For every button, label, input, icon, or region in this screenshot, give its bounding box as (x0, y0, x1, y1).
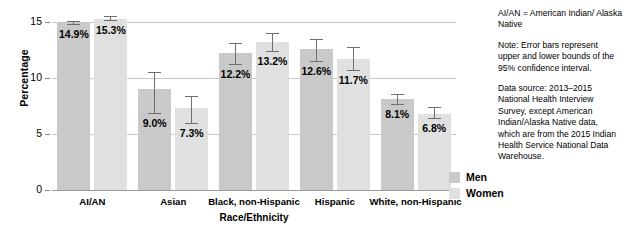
error-bar-line (353, 47, 354, 72)
legend-swatch-women-icon (449, 188, 460, 199)
error-bar-cap-upper (428, 107, 441, 108)
error-bar-line (272, 33, 273, 52)
error-bar-women-3 (337, 47, 370, 72)
legend-item-men: Men (449, 169, 504, 185)
bar-label-men-0: 14.9% (54, 28, 93, 40)
bar-label-women-0: 15.3% (91, 24, 130, 36)
error-bar-cap-lower (229, 64, 242, 65)
error-bar-men-4 (381, 94, 414, 105)
error-bar-women-2 (256, 33, 289, 52)
y-tick-label-0: 0 (8, 183, 42, 195)
error-bar-men-3 (300, 39, 333, 63)
y-tick-label-15: 15 (8, 15, 42, 27)
y-tick-mark-15 (45, 22, 50, 23)
error-bar-cap-lower (428, 118, 441, 119)
x-axis-title: Race/Ethnicity (52, 212, 456, 223)
error-bar-cap-lower (148, 113, 161, 114)
y-tick-mark-0 (45, 190, 50, 191)
error-bar-cap-upper (229, 43, 242, 44)
x-axis-line (52, 190, 458, 191)
error-bar-cap-lower (266, 51, 279, 52)
bar-label-women-2: 13.2% (253, 55, 292, 67)
error-bar-cap-upper (310, 39, 323, 40)
y-tick-mark-5 (45, 134, 50, 135)
error-bar-cap-upper (185, 96, 198, 97)
error-bar-men-1 (138, 72, 171, 113)
legend-swatch-men-icon (449, 172, 460, 183)
error-bar-line (235, 43, 236, 64)
error-bar-cap-lower (104, 20, 117, 21)
error-bar-line (191, 96, 192, 124)
error-bar-women-4 (418, 107, 451, 119)
error-bar-men-0 (57, 21, 90, 25)
bar-label-women-3: 11.7% (334, 74, 373, 86)
bar-women-0 (94, 19, 127, 190)
error-bar-women-0 (94, 16, 127, 20)
note-data-source: Data source: 2013–2015 National Health I… (498, 83, 622, 163)
note-error-bars: Note: Error bars represent upper and low… (498, 40, 622, 74)
error-bar-cap-lower (185, 123, 198, 124)
note-abbreviation: AI/AN = American Indian/ Alaska Native (498, 8, 622, 31)
legend-label-women: Women (466, 187, 504, 199)
bar-label-men-4: 8.1% (378, 108, 417, 120)
legend-label-men: Men (466, 171, 487, 183)
bar-label-men-1: 9.0% (135, 117, 174, 129)
error-bar-women-1 (175, 96, 208, 124)
error-bar-cap-upper (391, 94, 404, 95)
bar-label-women-1: 7.3% (172, 127, 211, 139)
error-bar-cap-upper (347, 47, 360, 48)
bar-label-men-3: 12.6% (297, 65, 336, 77)
notes-panel: AI/AN = American Indian/ Alaska Native N… (498, 8, 622, 172)
error-bar-cap-lower (391, 104, 404, 105)
error-bar-cap-lower (67, 24, 80, 25)
bar-men-0 (57, 23, 90, 190)
plot-area: 14.9%15.3%9.0%7.3%12.2%13.2%12.6%11.7%8.… (52, 22, 456, 190)
error-bar-cap-upper (266, 33, 279, 34)
legend: Men Women (449, 169, 504, 201)
error-bar-line (154, 72, 155, 113)
y-tick-label-10: 10 (8, 71, 42, 83)
error-bar-cap-upper (148, 72, 161, 73)
bar-label-men-2: 12.2% (216, 68, 255, 80)
error-bar-cap-upper (104, 16, 117, 17)
error-bar-line (316, 39, 317, 63)
y-tick-mark-10 (45, 78, 50, 79)
bar-chart-figure: Percentage 051015 14.9%15.3%9.0%7.3%12.2… (0, 0, 624, 249)
legend-item-women: Women (449, 185, 504, 201)
error-bar-cap-lower (347, 70, 360, 71)
error-bar-men-2 (219, 43, 252, 64)
bar-label-women-4: 6.8% (415, 122, 454, 134)
error-bar-cap-lower (310, 61, 323, 62)
y-tick-label-5: 5 (8, 127, 42, 139)
error-bar-cap-upper (67, 21, 80, 22)
